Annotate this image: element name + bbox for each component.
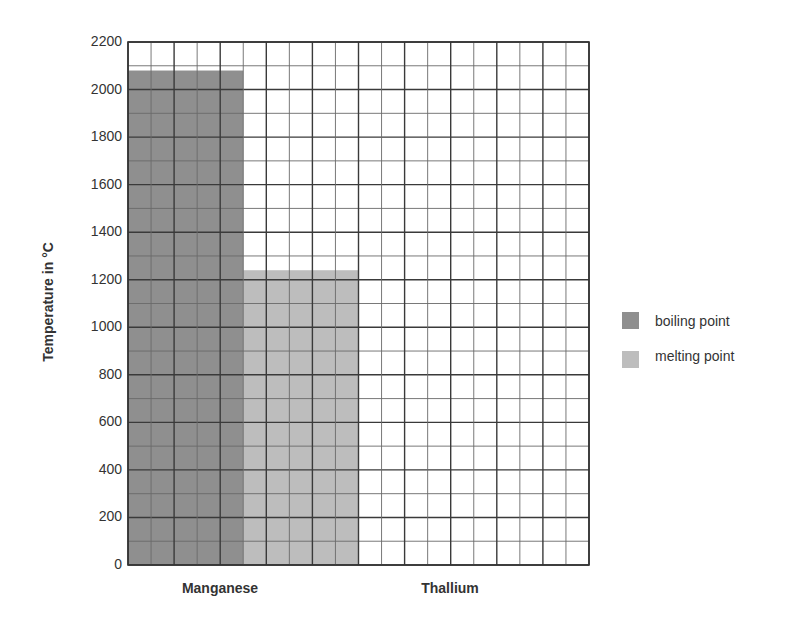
y-axis-title: Temperature in °C [40, 232, 56, 372]
y-tick-label: 200 [72, 508, 122, 524]
y-tick-label: 800 [72, 366, 122, 382]
category-label-manganese: Manganese [150, 580, 290, 596]
bar-boiling-point-manganese [128, 71, 243, 565]
legend-swatch-melting [622, 351, 639, 368]
y-tick-label: 1000 [72, 318, 122, 334]
y-tick-label: 2000 [72, 81, 122, 97]
legend-item-melting-point: melting point [622, 343, 734, 368]
y-tick-label: 1400 [72, 223, 122, 239]
category-label-thallium: Thallium [380, 580, 520, 596]
y-tick-label: 0 [72, 556, 122, 572]
bar-melting-point-manganese [243, 270, 358, 565]
y-tick-label: 400 [72, 461, 122, 477]
y-tick-label: 1200 [72, 271, 122, 287]
bar-chart: Temperature in °C 0200400600800100012001… [0, 0, 786, 626]
legend-item-boiling-point: boiling point [622, 312, 730, 329]
legend-label-boiling: boiling point [655, 313, 730, 329]
legend-label-melting: melting point [655, 348, 734, 364]
legend-swatch-boiling [622, 312, 639, 329]
y-tick-label: 1800 [72, 128, 122, 144]
y-tick-label: 600 [72, 413, 122, 429]
y-tick-label: 1600 [72, 176, 122, 192]
y-tick-label: 2200 [72, 33, 122, 49]
